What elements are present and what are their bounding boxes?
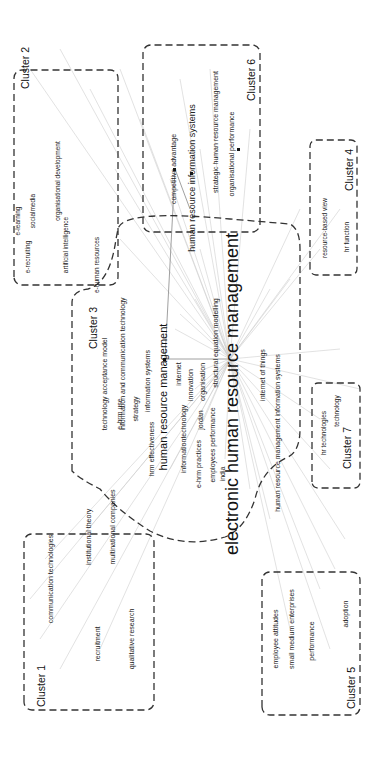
keyword-technology-acceptance-model: technology acceptance model xyxy=(101,338,108,431)
keyword-technology: technology xyxy=(334,395,341,426)
keyword-hrmis: human resource management information sy… xyxy=(274,354,281,512)
keyword-employees-performance: employees performance xyxy=(209,407,216,482)
keyword-e-learning: e-learning xyxy=(15,207,22,236)
keyword-institutional-theory: institutional theory xyxy=(85,509,92,565)
keyword-qualitative-research: qualitative research xyxy=(128,609,135,670)
keyword-human-resource-information-systems: human resource information systems xyxy=(188,104,197,252)
keyword-human-resource-management: human resource management xyxy=(158,324,169,471)
keyword-ehrm-central: electronic human resource management xyxy=(223,233,241,555)
keyword-hr-function: hr function xyxy=(344,222,351,252)
keyword-india: india xyxy=(219,467,226,482)
keyword-communication-technologies: communication technologies xyxy=(47,535,54,623)
keyword-information-technology: informationtechnology xyxy=(180,405,187,474)
keyword-small-medium-enterprises: small medium enterprises xyxy=(288,589,295,669)
keyword-competitive-advantage: competitive advantage xyxy=(170,134,177,204)
keyword-hr-technologies: hr technologies xyxy=(321,411,328,455)
keyword-hrm-effectiveness: hrm effectiveness xyxy=(148,422,155,477)
keyword-internet: internet xyxy=(175,362,182,385)
keyword-resource-based-view: resource-based view xyxy=(322,198,329,258)
keyword-organisation: organisation xyxy=(199,363,206,401)
keyword-e-recruiting: e-recruiting xyxy=(25,241,32,274)
keyword-strategic-hrm: strategic human resource management xyxy=(212,71,219,193)
keyword-strategy: strategy xyxy=(132,397,139,422)
keyword-recruitment: recruitment xyxy=(94,626,101,661)
keyword-adoption: adoption xyxy=(342,601,349,628)
keyword-information-systems: information systems xyxy=(144,350,151,412)
keyword-organisational-performance: organisational performance xyxy=(228,112,235,197)
keyword-jordan: jordan xyxy=(197,410,204,429)
keyword-innovation: innovation xyxy=(187,369,194,401)
keyword-e-human-resources: e-human resources xyxy=(94,237,101,293)
keyword-e-hrm-use: e-hrm use xyxy=(116,398,123,430)
keyword-e-hrm-practices: e-hrm practices xyxy=(195,440,202,488)
cluster-1-title: Cluster 1 xyxy=(36,665,47,707)
cluster-3-title: Cluster 3 xyxy=(88,307,99,349)
keyword-internet-of-things: internet of things xyxy=(259,349,266,401)
cluster-2-title: Cluster 2 xyxy=(20,47,31,89)
keyword-employee-attitudes: employee attitudes xyxy=(272,610,279,669)
keyword-artificial-intelligence: artificial intelligence xyxy=(63,217,70,273)
cluster-4-title: Cluster 4 xyxy=(344,149,355,191)
keyword-organisational-development: organisational development xyxy=(55,141,62,221)
keyword-sem: structural equation modelling xyxy=(212,298,219,388)
cluster-5-title: Cluster 5 xyxy=(346,667,357,709)
keyword-social-media: socialmedia xyxy=(30,194,37,228)
cluster-6-title: Cluster 6 xyxy=(246,59,257,101)
cluster-7-title: Cluster 7 xyxy=(342,427,353,469)
network-diagram: Cluster 1 Cluster 2 Cluster 3 Cluster 4 … xyxy=(0,0,386,769)
keyword-multinational-companies: multinational companies xyxy=(109,489,116,564)
keyword-performance: performance xyxy=(308,621,315,660)
